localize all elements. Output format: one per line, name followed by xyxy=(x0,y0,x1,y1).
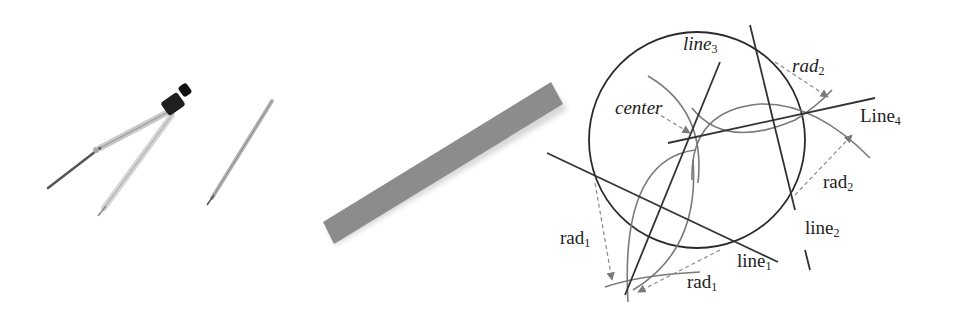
rad2-right-label: rad2 xyxy=(823,172,853,193)
compass-icon xyxy=(48,82,193,216)
rad2-top-label: rad2 xyxy=(792,56,824,77)
rad1-left-label: rad1 xyxy=(560,228,590,249)
center-label: center xyxy=(615,98,662,117)
rad1-bottom-label: rad1 xyxy=(687,272,717,293)
straightedge-panel xyxy=(300,0,560,317)
line4-label: Line4 xyxy=(860,106,901,127)
line3-label: line3 xyxy=(683,34,718,55)
line-2-extension xyxy=(805,250,810,270)
straightedge-illustration xyxy=(300,0,560,317)
circle-center-construction-diagram: line3 center rad2 Line4 rad2 line2 line1… xyxy=(540,0,961,317)
line1-label: line1 xyxy=(737,251,772,272)
compass-and-pencil-illustration xyxy=(0,0,300,317)
drawing-tools-panel xyxy=(0,0,300,317)
pencil-icon xyxy=(207,101,272,205)
line2-label: line2 xyxy=(805,218,840,239)
ruler-icon xyxy=(323,82,563,244)
